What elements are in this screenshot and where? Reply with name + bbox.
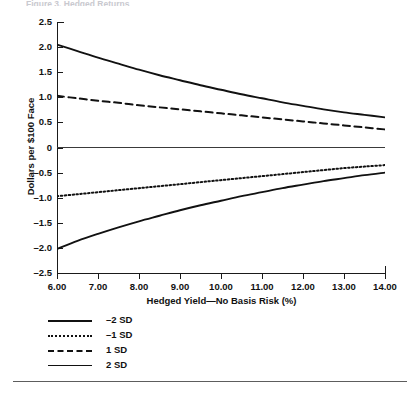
plot-area — [57, 22, 385, 273]
legend-item[interactable]: –2 SD — [48, 313, 248, 328]
x-tick-label: 9.00 — [158, 282, 202, 292]
x-tick-mark — [221, 273, 222, 279]
y-tick-label: 2.0 — [22, 42, 52, 52]
x-tick-label: 8.00 — [117, 282, 161, 292]
y-axis-title: Dollars per $100 Face — [25, 57, 36, 237]
series-lines — [57, 22, 385, 273]
x-tick-label: 7.00 — [76, 282, 120, 292]
legend-swatch-dotted-icon — [48, 335, 92, 337]
y-tick-label: –2.0 — [22, 243, 52, 253]
legend-swatch-solid-thin-icon — [48, 365, 92, 366]
series-line-1-sd — [57, 165, 385, 196]
x-tick-label: 10.00 — [199, 282, 243, 292]
series-line-2-sd — [57, 45, 385, 118]
legend-item[interactable]: –1 SD — [48, 328, 248, 343]
legend-label: –2 SD — [106, 313, 132, 327]
x-tick-mark — [139, 273, 140, 279]
legend-item[interactable]: 1 SD — [48, 343, 248, 358]
legend-item[interactable]: 2 SD — [48, 358, 248, 373]
x-tick-mark — [98, 273, 99, 279]
y-tick-label: –2.5 — [22, 268, 52, 278]
chart-legend: –2 SD–1 SD1 SD2 SD — [48, 313, 248, 373]
legend-label: –1 SD — [106, 328, 132, 342]
x-tick-label: 11.00 — [240, 282, 284, 292]
x-tick-mark — [385, 273, 386, 279]
series-line-1-sd — [57, 96, 385, 130]
x-tick-mark — [303, 273, 304, 279]
y-tick-label: 2.5 — [22, 17, 52, 27]
x-tick-mark — [262, 273, 263, 279]
x-tick-mark — [57, 273, 58, 279]
x-tick-label: 6.00 — [35, 282, 79, 292]
x-axis-title: Hedged Yield—No Basis Risk (%) — [57, 295, 386, 306]
x-tick-label: 12.00 — [281, 282, 325, 292]
legend-label: 1 SD — [106, 343, 127, 357]
x-tick-label: 13.00 — [322, 282, 366, 292]
chart-figure: 2.52.01.51.00.50–0.5–1.0–1.5–2.0–2.5 6.0… — [0, 6, 419, 376]
page-divider-bottom — [13, 381, 407, 382]
legend-swatch-solid-thick-icon — [48, 320, 92, 322]
x-tick-label: 14.00 — [363, 282, 407, 292]
x-tick-mark — [344, 273, 345, 279]
series-line-2-sd — [57, 173, 385, 249]
x-tick-mark — [180, 273, 181, 279]
legend-swatch-dashed-icon — [48, 350, 92, 352]
legend-label: 2 SD — [106, 358, 127, 372]
